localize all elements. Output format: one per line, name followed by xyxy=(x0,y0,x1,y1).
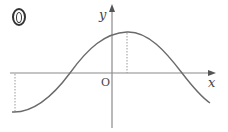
origin-label: O xyxy=(101,77,110,88)
wave-curve xyxy=(12,32,210,112)
problem-number-badge: 0 xyxy=(12,8,26,26)
graph-canvas xyxy=(0,0,228,132)
x-axis-label: x xyxy=(208,76,215,89)
y-axis-label: y xyxy=(99,8,106,21)
y-axis-arrow-icon xyxy=(109,4,115,12)
function-graph: 0 y x O xyxy=(0,0,228,132)
